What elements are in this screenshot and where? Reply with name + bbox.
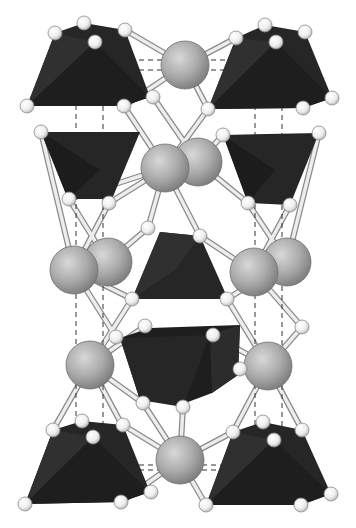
structure-canvas [0,0,356,528]
cation-sphere [230,248,278,296]
cation-sphere [244,342,292,390]
cation-sphere [161,41,209,89]
polyhedron-lower-center [120,325,240,407]
cation-sphere [141,144,189,192]
cation-sphere [66,341,114,389]
polyhedron-top-right [208,25,332,109]
crystal-structure-figure [0,0,356,528]
cation-sphere [50,246,98,294]
cation-sphere [156,436,204,484]
